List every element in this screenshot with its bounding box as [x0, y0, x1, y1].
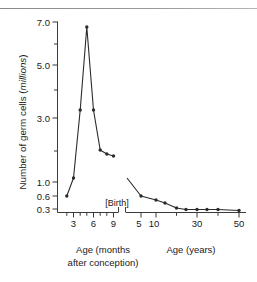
x-ticklabel-50-years: 50 [234, 218, 245, 229]
y-ticklabel-0.6: 0.6 [37, 191, 50, 202]
y-ticklabel-3.0: 3.0 [37, 113, 50, 124]
data-point-42-years [216, 208, 219, 211]
data-point-30-years [195, 208, 198, 211]
data-point-6-months [92, 108, 95, 111]
y-axis-title-plain: Number of germ cells ( [17, 90, 28, 190]
y-axis-title-text: Number of germ cells (millions) [17, 54, 28, 189]
x-axis-title-years: Age (years) [166, 244, 215, 255]
data-point-35-years [205, 208, 208, 211]
y-axis-title: Number of germ cells (millions) [17, 54, 28, 189]
figure-panel: 7.0 5.0 3.0 1.0 0.6 0.3 Number of germ c… [0, 0, 257, 282]
y-ticklabel-5.0: 5.0 [37, 60, 50, 71]
birth-annotation: [Birth] [105, 198, 129, 208]
data-point-7-months [99, 148, 102, 151]
data-point-5-months-peak [85, 25, 88, 28]
x-ticklabel-30-years: 30 [192, 218, 203, 229]
y-ticklabel-0.3: 0.3 [37, 204, 50, 215]
y-axis-title-close: ) [17, 54, 28, 57]
x-axis-title-months-line2: after conception) [68, 257, 139, 268]
data-series-germ-cells [65, 25, 241, 212]
y-ticklabel-1.0: 1.0 [37, 177, 50, 188]
x-ticklabel-3-months: 3 [71, 218, 76, 229]
x-ticklabel-6-months: 6 [91, 218, 96, 229]
x-ticklabel-9-months: 9 [111, 218, 116, 229]
data-point-50-years [237, 209, 240, 212]
data-point-9-months [112, 154, 115, 157]
data-point-4-months [79, 108, 82, 111]
x-ticklabel-10-years: 10 [149, 218, 160, 229]
data-point-8-months [105, 152, 108, 155]
data-point-2-months [65, 194, 68, 197]
germ-cell-chart: 7.0 5.0 3.0 1.0 0.6 0.3 Number of germ c… [0, 0, 257, 282]
data-point-25-years [184, 208, 187, 211]
data-point-5-years [139, 194, 142, 197]
curve-segment-months [67, 27, 114, 196]
x-ticklabel-5-years: 5 [136, 218, 141, 229]
y-axis-title-italic: millions [17, 58, 28, 91]
data-point-13-years [163, 201, 166, 204]
y-ticklabel-7.0: 7.0 [37, 17, 50, 28]
data-point-3-months [72, 176, 75, 179]
x-axis-title-months-line1: Age (months [76, 244, 130, 255]
data-point-10-years [154, 198, 157, 201]
curve-segment-years [127, 178, 239, 211]
y-axis: 7.0 5.0 3.0 1.0 0.6 0.3 [37, 17, 58, 215]
data-point-20-years [175, 206, 178, 209]
